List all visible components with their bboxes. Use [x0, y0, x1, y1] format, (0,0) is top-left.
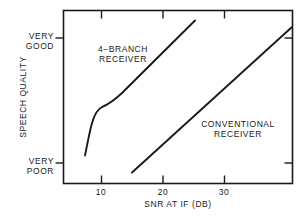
x-axis-tick-label-20: 20	[148, 187, 178, 197]
x-axis-ticks-top	[102, 11, 225, 19]
speech-quality-chart: VERYGOOD VERYPOOR SPEECH QUALITY 10 20 3…	[0, 0, 307, 216]
y-axis-label-very-good: VERYGOOD	[6, 31, 54, 51]
annotation-conventional-receiver: CONVENTIONALRECEIVER	[186, 119, 290, 139]
x-axis-title: SNR AT IF (DB)	[78, 199, 278, 209]
annotation-four-branch-line2: RECEIVER	[88, 54, 158, 64]
annotation-four-branch-line1: 4−BRANCH	[88, 44, 158, 54]
y-axis-label-very-good-line1: VERY	[6, 31, 54, 41]
annotation-conventional-line1: CONVENTIONAL	[186, 119, 290, 129]
y-axis-label-very-poor: VERYPOOR	[6, 156, 54, 176]
x-axis-tick-label-30: 30	[209, 187, 239, 197]
annotation-conventional-line2: RECEIVER	[186, 129, 290, 139]
y-axis-ticks-right	[285, 38, 293, 163]
y-axis-label-very-poor-line1: VERY	[6, 156, 54, 166]
y-axis-title: SPEECH QUALITY	[18, 29, 28, 165]
y-axis-label-very-good-line2: GOOD	[6, 41, 54, 51]
curve-four-branch-receiver	[85, 21, 195, 156]
annotation-four-branch-receiver: 4−BRANCHRECEIVER	[88, 44, 158, 64]
x-axis-ticks-bottom	[102, 176, 225, 184]
y-axis-ticks-left	[56, 38, 64, 163]
y-axis-label-very-poor-line2: POOR	[6, 166, 54, 176]
x-axis-tick-label-10: 10	[86, 187, 116, 197]
